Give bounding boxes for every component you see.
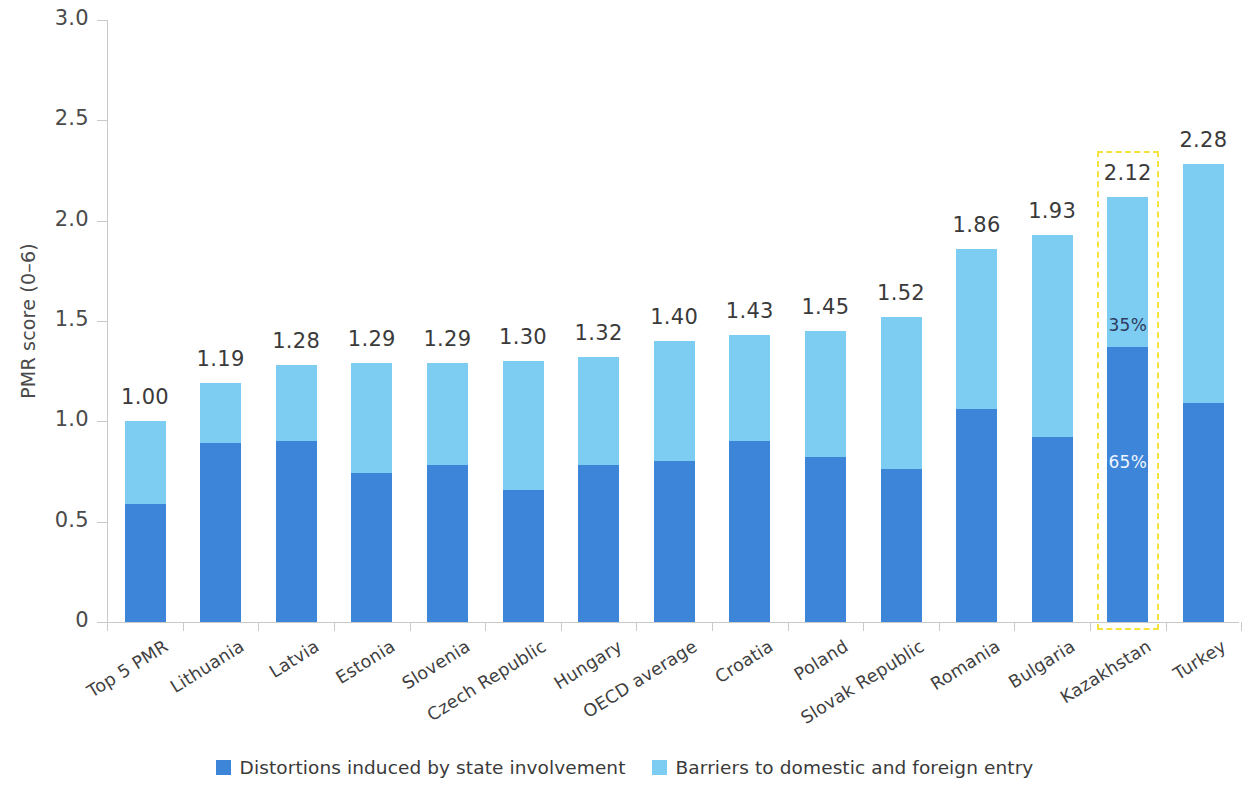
bar-slovenia[interactable] xyxy=(427,363,468,622)
bar-segment-barriers-to-entry[interactable] xyxy=(427,363,468,465)
bar-value-label-slovak-republic: 1.52 xyxy=(841,281,961,305)
bar-segment-state-involvement[interactable] xyxy=(427,465,468,622)
pmr-stacked-bar-chart: PMR score (0–6) 00.51.01.52.02.53.0 Top … xyxy=(0,0,1249,792)
bar-value-label-bulgaria: 1.93 xyxy=(992,199,1112,223)
bar-segment-barriers-to-entry[interactable] xyxy=(729,335,770,441)
bar-czech-republic[interactable] xyxy=(503,361,544,622)
bar-segment-state-involvement[interactable] xyxy=(654,461,695,622)
bar-slovak-republic[interactable] xyxy=(881,317,922,622)
bar-estonia[interactable] xyxy=(351,363,392,622)
bar-segment-barriers-to-entry[interactable] xyxy=(578,357,619,465)
bar-oecd-average[interactable] xyxy=(654,341,695,622)
bar-segment-state-involvement[interactable] xyxy=(881,469,922,622)
bar-poland[interactable] xyxy=(805,331,846,622)
bar-segment-barriers-to-entry[interactable] xyxy=(200,383,241,443)
legend-item-state-involvement[interactable]: Distortions induced by state involvement xyxy=(216,757,626,778)
bar-segment-state-involvement[interactable] xyxy=(351,473,392,621)
bar-value-label-kazakhstan: 2.12 xyxy=(1068,161,1188,185)
bar-lithuania[interactable] xyxy=(200,383,241,622)
bar-segment-barriers-to-entry[interactable] xyxy=(503,361,544,489)
bar-segment-state-involvement[interactable] xyxy=(125,504,166,622)
bar-segment-barriers-to-entry[interactable] xyxy=(276,365,317,441)
bar-segment-state-involvement[interactable] xyxy=(956,409,997,622)
bar-segment-state-involvement[interactable] xyxy=(578,465,619,622)
kazakhstan-barriers-percent-label: 35% xyxy=(1088,315,1168,335)
bar-turkey[interactable] xyxy=(1183,164,1224,622)
legend-swatch-icon xyxy=(652,760,667,775)
bar-segment-state-involvement[interactable] xyxy=(276,441,317,622)
plot-area: 1.001.191.281.291.291.301.321.401.431.45… xyxy=(0,0,1249,792)
legend-label: Barriers to domestic and foreign entry xyxy=(676,757,1034,778)
bar-segment-barriers-to-entry[interactable] xyxy=(1183,164,1224,403)
bar-segment-barriers-to-entry[interactable] xyxy=(351,363,392,473)
legend-label: Distortions induced by state involvement xyxy=(240,757,626,778)
bar-croatia[interactable] xyxy=(729,335,770,622)
bar-romania[interactable] xyxy=(956,249,997,622)
bar-segment-state-involvement[interactable] xyxy=(1183,403,1224,622)
bar-segment-barriers-to-entry[interactable] xyxy=(956,249,997,410)
bar-segment-state-involvement[interactable] xyxy=(805,457,846,622)
legend-item-barriers-to-entry[interactable]: Barriers to domestic and foreign entry xyxy=(652,757,1034,778)
bar-segment-state-involvement[interactable] xyxy=(1032,437,1073,622)
bar-segment-state-involvement[interactable] xyxy=(200,443,241,622)
bar-value-label-top-5-pmr: 1.00 xyxy=(85,385,205,409)
bar-segment-barriers-to-entry[interactable] xyxy=(654,341,695,461)
kazakhstan-state-involvement-percent-label: 65% xyxy=(1088,452,1168,472)
bar-hungary[interactable] xyxy=(578,357,619,622)
bar-segment-state-involvement[interactable] xyxy=(729,441,770,622)
bar-segment-barriers-to-entry[interactable] xyxy=(881,317,922,470)
legend-swatch-icon xyxy=(216,760,231,775)
bar-segment-state-involvement[interactable] xyxy=(503,490,544,622)
bar-segment-state-involvement[interactable] xyxy=(1107,347,1148,622)
bar-value-label-turkey: 2.28 xyxy=(1143,128,1249,152)
bar-segment-barriers-to-entry[interactable] xyxy=(1032,235,1073,438)
bar-segment-barriers-to-entry[interactable] xyxy=(805,331,846,457)
bar-kazakhstan[interactable] xyxy=(1107,197,1148,622)
chart-legend: Distortions induced by state involvement… xyxy=(0,757,1249,778)
bar-top-5-pmr[interactable] xyxy=(125,421,166,622)
bar-segment-barriers-to-entry[interactable] xyxy=(125,421,166,503)
bar-latvia[interactable] xyxy=(276,365,317,622)
bar-bulgaria[interactable] xyxy=(1032,235,1073,622)
